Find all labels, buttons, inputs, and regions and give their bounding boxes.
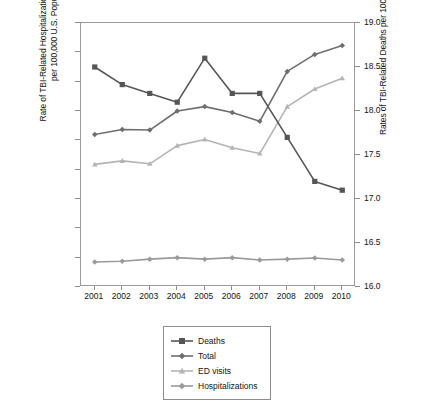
chart-legend: DeathsTotalED visitsHospitalizations [163,326,271,400]
data-point-marker [147,256,153,262]
left-axis-title: Rate of TBI-Related Hospitalizations and… [38,0,60,164]
right-axis-tick-label: 18.5 [364,62,398,71]
data-point-marker [257,91,262,96]
data-point-marker [285,135,290,140]
legend-item-label: Hospitalizations [198,381,258,391]
legend-item-label: Deaths [198,336,225,346]
legend-marker-icon [170,380,194,392]
right-axis-tick-label: 16.0 [364,282,398,291]
legend-marker-icon [170,365,194,377]
data-point-marker [175,255,181,261]
legend-item-hospitalizations[interactable]: Hospitalizations [170,378,262,393]
legend-item-ed-visits[interactable]: ED visits [170,363,262,378]
series-line [95,78,343,164]
legend-item-total[interactable]: Total [170,348,262,363]
data-point-marker [175,100,180,105]
data-point-marker [312,255,318,261]
data-point-marker [92,259,98,265]
data-point-marker [230,91,235,96]
x-axis-tick-label: 2010 [324,292,358,301]
legend-item-label: ED visits [198,366,231,376]
series-hospitalizations [92,255,345,265]
data-point-marker [340,257,346,263]
right-axis-tick-label: 19.0 [364,18,398,27]
right-axis-tick-label: 17.5 [364,150,398,159]
legend-item-deaths[interactable]: Deaths [170,333,262,348]
data-point-marker [120,82,125,87]
right-axis-tick-label: 17.0 [364,194,398,203]
series-line [95,46,343,135]
data-point-marker [92,64,97,69]
series-deaths [92,56,345,193]
data-point-marker [285,256,291,262]
data-point-marker [230,255,236,261]
series-ed-visits [92,75,345,166]
data-point-marker [340,43,346,49]
series-canvas [81,23,356,287]
data-point-marker [202,256,208,262]
series-line [95,258,343,262]
right-axis-tick-label: 16.5 [364,238,398,247]
legend-marker-icon [170,335,194,347]
right-axis-tick-label: 18.0 [364,106,398,115]
plot-area [80,22,355,286]
data-point-marker [202,56,207,61]
data-point-marker [257,257,263,263]
left-axis-tick-mark [75,286,80,287]
legend-marker-icon [170,350,194,362]
data-point-marker [340,75,346,80]
data-point-marker [340,188,345,193]
data-point-marker [202,104,208,110]
data-point-marker [230,110,236,116]
legend-item-label: Total [198,351,216,361]
data-point-marker [147,91,152,96]
data-point-marker [312,179,317,184]
series-line [95,58,343,190]
data-point-marker [92,132,98,138]
chart-figure: Rate of TBI-Related Hospitalizations and… [0,0,430,413]
series-total [92,43,345,137]
data-point-marker [120,127,126,133]
data-point-marker [120,258,126,264]
